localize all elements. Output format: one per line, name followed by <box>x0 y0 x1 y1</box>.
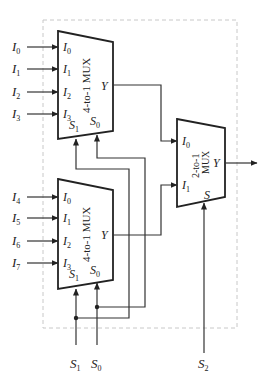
mux-diagram: I0 I1 I2 I3 I0 I1 I2 I3 S1 S0 4-to-1 MUX… <box>0 0 271 388</box>
top-4to1-mux: I0 I1 I2 I3 I0 I1 I2 I3 S1 S0 4-to-1 MUX… <box>11 31 113 139</box>
bottom-mux-title: 4-to-1 MUX <box>80 207 92 262</box>
top-y-to-i0-wire <box>113 85 177 141</box>
top-ext-input-label-0: I0 <box>11 39 20 56</box>
s0-junction-dot <box>95 305 99 309</box>
final-mux-title-line2: MUX <box>200 150 211 174</box>
final-2to1-mux: I0 I1 S 2-to-1 MUX Y <box>177 119 257 207</box>
bottom-ext-input-label-3: I7 <box>11 255 20 272</box>
final-sel-pin-label: S <box>204 188 210 202</box>
top-ext-input-label-1: I1 <box>11 61 20 78</box>
bottom-4to1-mux: I4 I5 I6 I7 I0 I1 I2 I3 S1 S0 4-to-1 MUX… <box>11 179 113 289</box>
top-ext-input-label-3: I3 <box>11 106 20 123</box>
top-mux-title: 4-to-1 MUX <box>80 58 92 113</box>
select-input-label-s0: S0 <box>91 356 102 373</box>
bottom-ext-input-label-0: I4 <box>11 189 20 206</box>
top-ext-input-label-2: I2 <box>11 84 20 101</box>
select-input-label-s1: S1 <box>70 356 81 373</box>
select-input-label-s2: S2 <box>198 356 209 373</box>
s1-junction-dot <box>74 316 78 320</box>
bottom-ext-input-label-1: I5 <box>11 210 20 227</box>
bottom-ext-input-label-2: I6 <box>11 233 20 250</box>
